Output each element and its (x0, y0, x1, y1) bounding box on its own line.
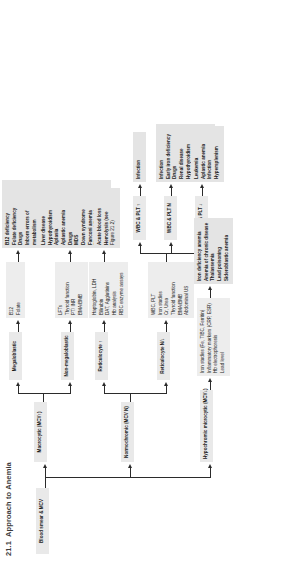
node-normochromic-label: Normochromic (MCV N) (124, 405, 131, 459)
diagnosis-item: Infection (136, 135, 143, 179)
connector-wbc-plt-normal-dx (171, 188, 172, 196)
arrow-to-wbc-plt-normal (169, 242, 173, 246)
diagnosis-item: Hypersplenism (214, 129, 221, 179)
node-wbc-plt-low-diagnoses: Leukemia Aplastic anemia Infection Hyper… (191, 126, 224, 182)
test-item: PT/ INR (71, 265, 78, 315)
connector-macrocytic-to-megaloblastic (18, 386, 19, 394)
connector-megaloblastic-dx (18, 254, 19, 262)
diagnosis-item: Anemia of chronic disease (204, 221, 211, 281)
test-item: Iron studies (158, 265, 165, 315)
diagnosis-item: MDS (74, 183, 81, 245)
arrow-to-retic-high (102, 382, 106, 386)
node-root-label: Blood smear & MCV (39, 491, 46, 551)
connector-to-macrocytic (45, 468, 46, 478)
diagnosis-item: Aplastic anemia (201, 129, 208, 179)
connector-root-out (45, 478, 46, 488)
diagnosis-item: Renal disease (179, 127, 186, 179)
diagnosis-item: Iron deficiency anemia (197, 221, 204, 281)
diagnosis-item: Hypothyroidism (48, 183, 55, 245)
node-hypochromic: Hypochromic microcytic (MCV↓) (200, 390, 213, 462)
connector-nonmegaloblastic-tests (70, 324, 71, 332)
arrow-wbc-plt-low-dx (200, 184, 204, 188)
test-item: Lead level (220, 301, 227, 373)
arrow-retic-high-dx (102, 250, 106, 254)
arrow-wbc-plt-normal-dx (169, 184, 173, 188)
node-reticulocyte-high-diagnoses: Acute blood loss Hemolysis (see Figure 2… (94, 188, 120, 248)
connector-wbc-plt-low-dx (202, 188, 203, 196)
test-item: BMA/BMB (178, 265, 185, 315)
connector-to-wbc-plt-high (140, 246, 141, 254)
arrow-to-wbc-plt-high (138, 242, 142, 246)
node-wbc-plt-high-label: WBC & PLT ↑ (136, 199, 143, 237)
test-item: RBC enzyme assays (119, 265, 126, 315)
diagnosis-item: Infection (159, 127, 166, 179)
connector-retic-low-split-out (166, 254, 167, 262)
diagnosis-item: Leukemia (194, 129, 201, 179)
figure-caption: 21.1Approach to Anemia (4, 462, 13, 556)
connector-normochromic-to-retic-low (166, 386, 167, 394)
node-wbc-plt-normal: WBC & PLT N (164, 196, 177, 240)
test-item: DAT, Agglutinins (105, 265, 112, 315)
test-item: Hb analysis (112, 265, 119, 315)
node-wbc-plt-normal-label: WBC & PLT N (167, 199, 174, 237)
node-wbc-plt-high: WBC & PLT ↑ (133, 196, 146, 240)
test-item: Abdominal US (184, 265, 191, 315)
node-nonmegaloblastic-label: Non-megaloblastic (64, 335, 71, 377)
arrow-hypochromic-dx (208, 286, 212, 290)
diagnosis-item: Aplasia (54, 183, 61, 245)
test-item: BMA/BMB (78, 265, 85, 315)
test-item: Cr, Urea (164, 265, 171, 315)
node-macrocytic: Macrocytic (MCV↑) (34, 402, 47, 462)
diagnosis-item: Aplastic anemia (61, 183, 68, 245)
connector-to-normochromic (130, 468, 131, 478)
arrow-to-hypochromic (208, 464, 212, 468)
arrow-to-megaloblastic (16, 382, 20, 386)
arrow-to-macrocytic (43, 464, 47, 468)
flowchart-canvas: 21.1Approach to Anemia Blood smear & MCV… (0, 0, 287, 562)
test-item: Haptoglobin, LDH (92, 265, 99, 315)
test-item: Hb electrophoresis (213, 301, 220, 373)
connector-retic-low-tests (166, 324, 167, 332)
node-reticulocyte-low-tests: WBC, PLT Iron studies Cr, Urea Thyroid f… (148, 262, 194, 318)
connector-macrocytic-out (43, 394, 44, 402)
node-hypochromic-label: Hypochromic microcytic (MCV↓) (203, 393, 210, 459)
test-item: Thyroid function (65, 265, 72, 315)
connector-normochromic-out (130, 394, 131, 402)
connector-macrocytic-split (18, 393, 70, 394)
connector-normochromic-to-retic-high (104, 386, 105, 394)
test-item: WBC, PLT (151, 265, 158, 315)
node-root: Blood smear & MCV (36, 488, 49, 554)
connector-to-hypochromic (210, 468, 211, 478)
connector-retic-high-dx (104, 254, 105, 262)
arrow-megaloblastic-tests (16, 320, 20, 324)
arrow-megaloblastic-dx (16, 250, 20, 254)
figure-title: Approach to Anemia (4, 462, 13, 537)
node-reticulocyte-high-tests: Haptoglobin, LDH Bilirubin DAT, Agglutin… (89, 262, 128, 318)
connector-to-wbc-plt-normal (171, 246, 172, 254)
node-megaloblastic-diagnoses: B12 deficiency Folate deficiency Drugs I… (2, 180, 41, 248)
node-wbc-plt-high-diagnoses: Infection (133, 132, 146, 182)
connector-wbc-plt-high-dx (140, 188, 141, 196)
node-nonmegaloblastic-tests: LFTs Thyroid function PT/ INR BMA/BMB (55, 262, 88, 318)
arrow-to-normochromic (128, 464, 132, 468)
diagnosis-item: Sideroblastic anemia (224, 221, 231, 281)
arrow-to-retic-low (164, 382, 168, 386)
diagnosis-item: Drugs (18, 183, 25, 245)
node-nonmegaloblastic: Non-megaloblastic (61, 332, 74, 380)
arrow-hypochromic-tests (208, 378, 212, 382)
diagnosis-item: Infection (207, 129, 214, 179)
connector-hypochromic-tests (210, 382, 211, 390)
node-megaloblastic-label: Megaloblastic (12, 335, 19, 377)
diagnosis-item: Hemolysis (see (104, 191, 111, 245)
node-reticulocyte-low-label: Reticulocyte N/↓ (160, 335, 167, 377)
diagnosis-item: Drugs (68, 183, 75, 245)
connector-megaloblastic-tests (18, 324, 19, 332)
node-reticulocyte-high-label: Reticulocyte ↑ (98, 335, 105, 377)
connector-root-spine (45, 477, 210, 478)
diagnosis-item: Inborn errors of (25, 183, 32, 245)
test-item: Folate (16, 265, 23, 315)
connector-nonmegaloblastic-dx (70, 254, 71, 262)
node-reticulocyte-low: Reticulocyte N/↓ (157, 332, 170, 380)
node-hypochromic-tests: Iron studies (Fe, TIBC, Ferritin) Inflam… (197, 298, 230, 376)
diagnosis-item: Folate deficiency (12, 183, 19, 245)
